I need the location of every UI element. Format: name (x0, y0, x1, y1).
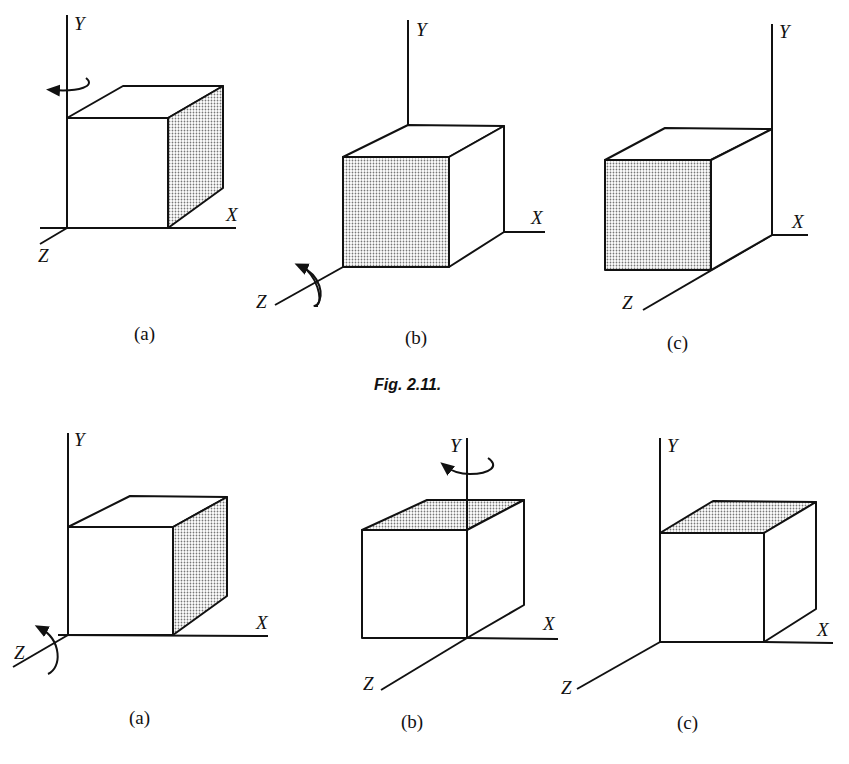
bottom-panel-b: Y X Z (b) (362, 435, 558, 733)
top-panel-a: Y X Z (a) (38, 13, 239, 345)
y-axis-label: Y (450, 435, 463, 456)
cube-front-face (362, 530, 467, 638)
figure-caption: Fig. 2.11. (374, 376, 441, 393)
cube-front-face-shaded (605, 160, 711, 270)
y-axis-label: Y (416, 19, 429, 40)
panel-caption: (c) (677, 712, 698, 734)
z-axis (577, 642, 660, 689)
y-axis-label: Y (667, 435, 680, 456)
panel-caption: (b) (401, 711, 423, 733)
x-axis-label: X (530, 207, 544, 228)
y-axis-label: Y (779, 21, 792, 42)
z-axis-label: Z (561, 677, 572, 698)
x-axis (467, 638, 558, 639)
x-axis-label: X (791, 211, 805, 232)
x-axis-label: X (542, 613, 556, 634)
y-axis-label: Y (74, 13, 87, 34)
bottom-panel-a: Y X Z (a) (13, 429, 269, 729)
rotation-arrow-icon (52, 78, 89, 90)
z-axis-label: Z (38, 245, 49, 266)
top-panel-c: Y X Z (c) (605, 21, 808, 354)
cube-front-face (67, 118, 168, 228)
cube-front-face-shaded (343, 157, 449, 267)
y-axis-label: Y (74, 429, 87, 450)
rotation-arrow-icon (445, 458, 493, 474)
z-axis-label: Z (256, 291, 267, 312)
z-axis-label: Z (363, 673, 374, 694)
rotation-arrow-icon (40, 628, 58, 674)
cube-front-face (68, 527, 173, 635)
z-axis-label: Z (622, 292, 633, 313)
cube-rotation-figure: Y X Z (a) Y X Z (b) Y X Z (c) Fig. 2.11. (0, 0, 849, 764)
x-axis (764, 642, 833, 643)
panel-caption: (a) (129, 707, 150, 729)
x-axis-label: X (255, 612, 269, 633)
z-axis-label: Z (14, 642, 25, 663)
top-panel-b: Y X Z (b) (256, 19, 545, 349)
panel-caption: (b) (405, 327, 427, 349)
z-axis (381, 638, 467, 690)
panel-caption: (a) (134, 323, 155, 345)
bottom-panel-c: Y X Z (c) (561, 435, 833, 734)
x-axis-label: X (225, 204, 239, 225)
z-axis (40, 228, 67, 244)
panel-caption: (c) (667, 332, 688, 354)
cube-front-face (660, 533, 764, 642)
x-axis-label: X (816, 619, 830, 640)
